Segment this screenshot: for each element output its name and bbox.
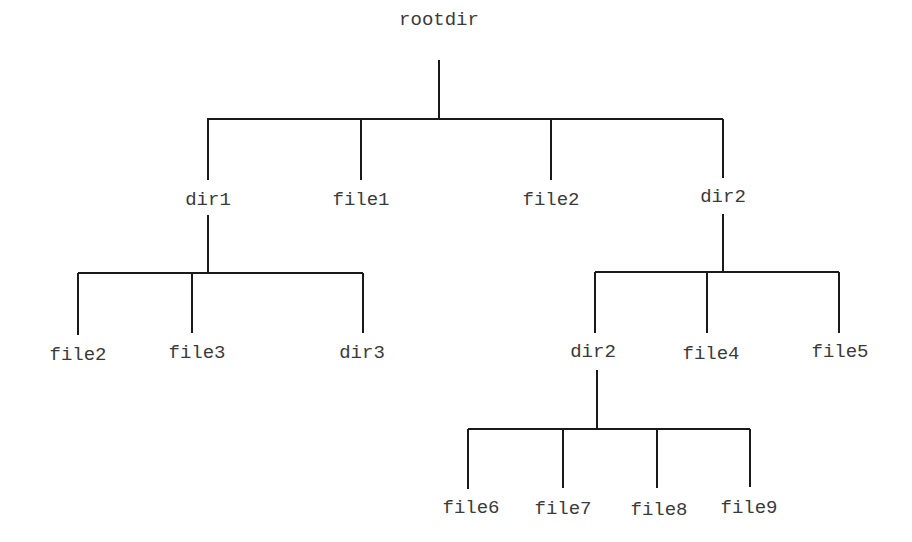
connector-dir2-nested xyxy=(468,370,750,489)
node-file2-sub: file2 xyxy=(49,346,106,365)
node-dir3: dir3 xyxy=(339,344,385,363)
tree-connector-lines xyxy=(0,0,912,542)
node-file3: file3 xyxy=(168,344,225,363)
node-dir2-nested: dir2 xyxy=(570,343,616,362)
connector-dir2 xyxy=(595,214,839,333)
node-file6: file6 xyxy=(442,499,499,518)
node-file7: file7 xyxy=(534,500,591,519)
connector-rootdir xyxy=(207,60,723,180)
node-dir1: dir1 xyxy=(185,191,231,210)
node-rootdir: rootdir xyxy=(399,11,479,30)
node-file8: file8 xyxy=(630,501,687,520)
node-dir2: dir2 xyxy=(700,188,746,207)
node-file2: file2 xyxy=(522,191,579,210)
node-file9: file9 xyxy=(720,499,777,518)
node-file1: file1 xyxy=(332,191,389,210)
node-file4: file4 xyxy=(682,345,739,364)
node-file5: file5 xyxy=(811,343,868,362)
connector-dir1 xyxy=(78,215,363,335)
